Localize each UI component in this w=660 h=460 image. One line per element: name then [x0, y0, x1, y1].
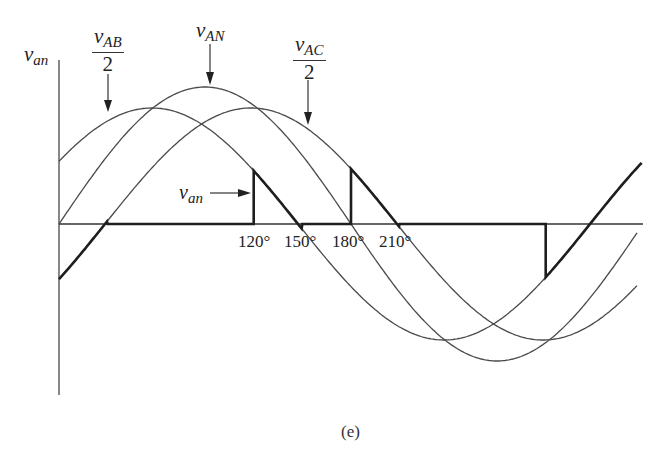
van-label: vAN	[196, 20, 225, 44]
tick-120: 120°	[238, 232, 270, 252]
van-inner-label: van	[179, 182, 203, 206]
tick-180: 180°	[332, 232, 364, 252]
van-inner-arrow-icon	[210, 189, 251, 197]
figure-caption: (e)	[341, 422, 360, 442]
vab-half-arrow-icon	[104, 74, 112, 112]
van-arrow-icon	[206, 44, 214, 85]
tick-150: 150°	[284, 232, 316, 252]
vab-half-label: vAB 2	[92, 26, 124, 75]
vac-half-label: vAC 2	[293, 34, 326, 83]
van-output-waveform	[59, 163, 642, 279]
tick-210: 210°	[379, 232, 411, 252]
vac-half-arrow-icon	[304, 80, 312, 125]
y-axis-label: van	[24, 44, 48, 68]
